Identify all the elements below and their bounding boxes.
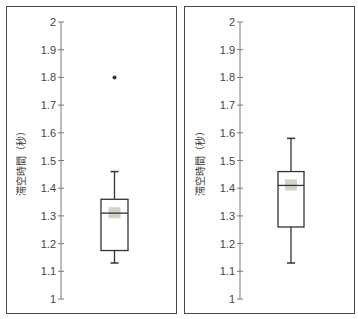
y-tick-label: 1.7	[41, 99, 56, 111]
y-tick-label: 1.2	[41, 238, 56, 250]
y-tick-label: 1.9	[220, 44, 235, 56]
y-tick-label: 1.8	[41, 71, 56, 83]
y-axis-label: 滞空時間（秒）	[194, 126, 206, 196]
y-tick-label: 1.6	[220, 127, 235, 139]
y-tick-label: 1	[229, 293, 235, 305]
y-tick-label: 1.3	[220, 210, 235, 222]
y-tick-label: 1.5	[220, 155, 235, 167]
y-tick-label: 1.2	[220, 238, 235, 250]
y-tick-label: 1.4	[41, 182, 56, 194]
y-tick-label: 1.3	[41, 210, 56, 222]
y-axis-label: 滞空時間（秒）	[15, 126, 27, 196]
y-tick-label: 1.1	[41, 265, 56, 277]
boxplot-chart: 11.11.21.31.41.51.61.71.81.92滞空時間（秒）11.1…	[0, 0, 358, 319]
y-tick-label: 2	[229, 16, 235, 28]
y-tick-label: 1.4	[220, 182, 235, 194]
y-tick-label: 1	[50, 293, 56, 305]
y-tick-label: 1.9	[41, 44, 56, 56]
y-tick-label: 1.1	[220, 265, 235, 277]
y-tick-label: 1.5	[41, 155, 56, 167]
y-tick-label: 1.7	[220, 99, 235, 111]
outlier-point	[113, 75, 117, 79]
y-tick-label: 1.6	[41, 127, 56, 139]
y-tick-label: 2	[50, 16, 56, 28]
y-tick-label: 1.8	[220, 71, 235, 83]
